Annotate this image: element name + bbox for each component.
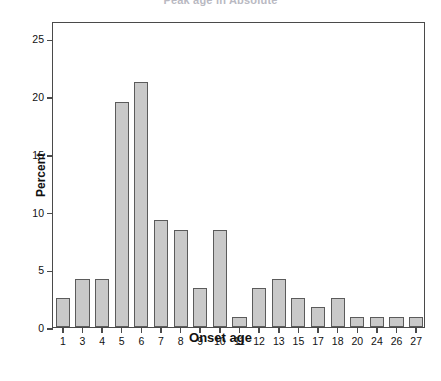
bar-7 — [154, 220, 168, 327]
bar-17 — [311, 307, 325, 327]
clipped-title: Peak age in Absolute — [0, 0, 441, 7]
bar-6 — [134, 82, 148, 327]
x-tick-mark — [62, 327, 64, 333]
x-tick-label: 24 — [371, 335, 383, 347]
x-tick-mark — [357, 327, 359, 333]
bar-24 — [370, 317, 384, 327]
x-tick-mark — [317, 327, 319, 333]
plot-area: Percent 0510152025 134567891011121315171… — [52, 22, 425, 328]
x-tick-mark — [141, 327, 143, 333]
bar-9 — [193, 288, 207, 327]
y-tick-label: 5 — [38, 264, 44, 276]
x-tick-label: 17 — [312, 335, 324, 347]
bar-15 — [291, 298, 305, 327]
x-tick-label: 7 — [158, 335, 164, 347]
bar-8 — [174, 230, 188, 327]
x-tick-mark — [415, 327, 417, 333]
x-tick-label: 13 — [273, 335, 285, 347]
x-tick-mark — [396, 327, 398, 333]
x-tick-mark — [82, 327, 84, 333]
x-tick-label: 8 — [178, 335, 184, 347]
x-tick-label: 1 — [60, 335, 66, 347]
x-tick-mark — [337, 327, 339, 333]
bar-1 — [56, 298, 70, 327]
chart-figure: Peak age in Absolute Percent 0510152025 … — [0, 0, 441, 381]
x-tick-label: 26 — [391, 335, 403, 347]
y-tick-mark — [47, 328, 53, 330]
bar-4 — [95, 279, 109, 327]
x-tick-label: 6 — [138, 335, 144, 347]
bar-26 — [389, 317, 403, 327]
x-tick-mark — [376, 327, 378, 333]
chart-title: Peak age in Absolute — [163, 0, 277, 6]
x-tick-mark — [160, 327, 162, 333]
x-tick-mark — [101, 327, 103, 333]
x-tick-mark — [298, 327, 300, 333]
bar-series — [53, 23, 424, 327]
bar-11 — [232, 317, 246, 327]
bar-5 — [115, 102, 129, 327]
x-tick-mark — [258, 327, 260, 333]
bar-13 — [272, 279, 286, 327]
x-tick-label: 4 — [99, 335, 105, 347]
y-tick-label: 0 — [38, 322, 44, 334]
x-tick-label: 20 — [351, 335, 363, 347]
x-tick-label: 12 — [253, 335, 265, 347]
x-tick-label: 15 — [293, 335, 305, 347]
x-tick-label: 27 — [410, 335, 422, 347]
x-tick-label: 18 — [332, 335, 344, 347]
bar-18 — [331, 298, 345, 327]
bar-12 — [252, 288, 266, 327]
y-tick-label: 10 — [32, 207, 44, 219]
bar-3 — [75, 279, 89, 327]
x-tick-mark — [180, 327, 182, 333]
bar-10 — [213, 230, 227, 327]
x-tick-label: 3 — [80, 335, 86, 347]
x-tick-mark — [278, 327, 280, 333]
x-tick-label: 5 — [119, 335, 125, 347]
y-tick-label: 20 — [32, 91, 44, 103]
x-axis-label: Onset age — [189, 330, 252, 345]
bar-27 — [409, 317, 423, 327]
y-tick-label: 15 — [32, 149, 44, 161]
bar-20 — [350, 317, 364, 327]
x-tick-mark — [121, 327, 123, 333]
y-tick-label: 25 — [32, 33, 44, 45]
